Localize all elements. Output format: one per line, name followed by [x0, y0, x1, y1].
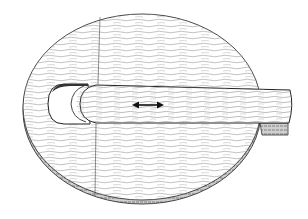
bar-side	[260, 123, 288, 135]
disc-slide-illustration	[0, 0, 308, 219]
